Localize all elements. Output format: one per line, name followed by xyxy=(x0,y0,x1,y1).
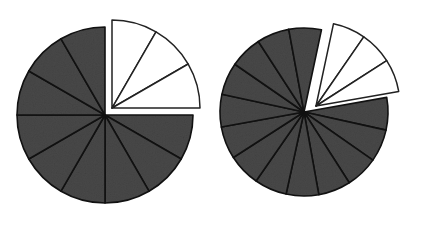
fraction-pie-figure xyxy=(0,0,432,225)
